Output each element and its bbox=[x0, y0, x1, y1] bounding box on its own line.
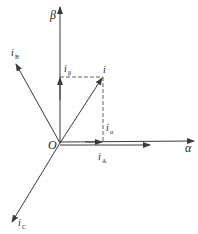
vector-ibeta: i β bbox=[60, 63, 71, 100]
vector-iA: i A bbox=[60, 145, 150, 164]
iC-subscript: C bbox=[22, 224, 26, 230]
iA-label: i bbox=[98, 151, 101, 162]
ibeta-label: i bbox=[64, 63, 67, 74]
vector-iB: i B bbox=[11, 47, 60, 143]
ibeta-subscript: β bbox=[68, 70, 71, 76]
ialpha-label: i bbox=[106, 122, 109, 133]
vector-i: i bbox=[60, 64, 106, 143]
vector-diagram: β α O i A i B i C i i β i bbox=[0, 0, 198, 234]
ialpha-subscript: α bbox=[110, 129, 114, 135]
iC-label: i bbox=[18, 217, 21, 228]
i-label: i bbox=[103, 64, 106, 75]
vector-iC: i C bbox=[12, 143, 60, 230]
iA-subscript: A bbox=[102, 158, 107, 164]
vector-ialpha: i α bbox=[85, 122, 114, 142]
beta-axis: β bbox=[49, 7, 60, 143]
beta-axis-label: β bbox=[49, 8, 56, 22]
alpha-axis-label: α bbox=[185, 141, 192, 155]
alpha-axis: α bbox=[60, 141, 194, 155]
iB-label: i bbox=[11, 47, 14, 58]
iB-subscript: B bbox=[15, 54, 19, 60]
